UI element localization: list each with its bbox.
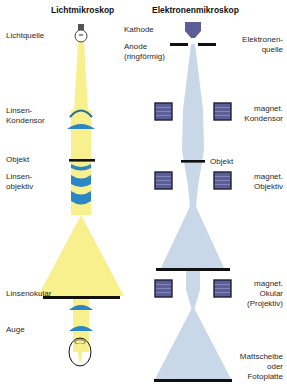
eyepiece-lens-upper — [69, 305, 93, 310]
label-light-object: Objekt — [6, 155, 29, 165]
label-screen-line2: oder — [267, 362, 283, 372]
label-light-source: Lichtquelle — [6, 31, 44, 41]
label-eyepiece: Linsenokular — [6, 289, 51, 299]
label-condenser-line1: Linsen- — [6, 106, 32, 116]
cathode-icon — [185, 22, 201, 38]
projective-coil-right — [214, 280, 231, 297]
projective-coil-left — [155, 280, 172, 297]
label-anode-line1: Anode — [124, 42, 147, 52]
label-electron-object: Objekt — [210, 157, 233, 167]
label-cathode: Kathode — [124, 25, 154, 35]
condenser-coil-left — [155, 103, 172, 120]
label-objective-line1: Linsen- — [6, 172, 32, 182]
label-mag-objective-line2: Objektiv — [254, 182, 283, 192]
light-bulb-icon — [75, 24, 87, 42]
label-mag-condenser-line2: Kondensor — [244, 114, 283, 124]
anode-left — [170, 43, 188, 46]
label-electron-source-line1: Elektronen- — [242, 35, 283, 45]
eyepiece-lens-lower — [69, 326, 93, 331]
light-image-plane — [43, 296, 120, 299]
condenser-coil-right — [214, 103, 231, 120]
anode-right — [198, 43, 216, 46]
label-screen-line3: Fotoplatte — [247, 372, 283, 382]
electron-image-plane — [156, 268, 230, 271]
label-anode-line2: (ringförmig) — [124, 52, 165, 62]
label-mag-condenser-line1: magnet. — [254, 104, 283, 114]
light-object-slide — [69, 159, 95, 162]
label-screen-line1: Mattscheibe — [240, 352, 283, 362]
electron-object-slide — [181, 160, 205, 163]
label-condenser-line2: Kondensor — [6, 116, 45, 126]
objective-coil-left — [155, 172, 172, 189]
electron-beam — [155, 44, 231, 379]
label-eye: Auge — [6, 325, 25, 335]
label-mag-ocular-line1: magnet. — [254, 279, 283, 289]
label-mag-ocular-line2: Okular — [259, 289, 283, 299]
label-electron-source-line2: quelle — [262, 45, 283, 55]
light-microscope-title: Lichtmikroskop — [51, 5, 114, 15]
label-mag-objective-line1: magnet. — [254, 172, 283, 182]
electron-microscope-title: Elektronenmikroskop — [152, 5, 239, 15]
objective-coil-right — [214, 172, 231, 189]
label-objective-line2: objektiv — [6, 182, 33, 192]
label-mag-ocular-line3: (Projektiv) — [247, 299, 283, 309]
screen-plate — [154, 379, 232, 382]
